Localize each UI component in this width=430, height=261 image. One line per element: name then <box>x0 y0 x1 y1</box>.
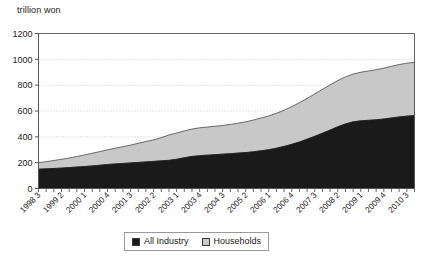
svg-text:1200: 1200 <box>12 29 32 39</box>
svg-text:1999 2: 1999 2 <box>41 190 65 214</box>
area-series-group <box>39 62 415 188</box>
svg-text:2000 4: 2000 4 <box>87 190 111 214</box>
x-axis-ticks: 1998 31999 22000 12000 42001 32002 22003… <box>18 189 414 215</box>
svg-text:2010 3: 2010 3 <box>387 190 411 214</box>
legend-item-households: Households <box>202 237 262 246</box>
svg-text:2008 2: 2008 2 <box>318 190 342 214</box>
svg-text:2000 1: 2000 1 <box>64 190 88 214</box>
svg-text:400: 400 <box>17 132 32 142</box>
svg-text:2007 3: 2007 3 <box>295 190 319 214</box>
svg-text:2001 3: 2001 3 <box>110 190 134 214</box>
svg-text:2004 3: 2004 3 <box>203 190 227 214</box>
svg-text:2003 4: 2003 4 <box>179 190 203 214</box>
svg-text:0: 0 <box>27 184 32 194</box>
legend-label-all-industry: All Industry <box>144 237 189 246</box>
legend-swatch-all-industry <box>132 238 140 246</box>
svg-text:800: 800 <box>17 80 32 90</box>
chart-container: trillion won 020040060080010001200 1998 … <box>0 0 430 261</box>
svg-text:2009 1: 2009 1 <box>341 190 365 214</box>
svg-text:2009 4: 2009 4 <box>364 190 388 214</box>
svg-text:2003 1: 2003 1 <box>156 190 180 214</box>
chart-legend: All Industry Households <box>124 232 269 251</box>
svg-text:2005 2: 2005 2 <box>226 190 250 214</box>
stacked-area-chart: 020040060080010001200 1998 31999 22000 1… <box>0 0 430 261</box>
legend-swatch-households <box>202 238 210 246</box>
svg-text:200: 200 <box>17 158 32 168</box>
svg-text:2006 1: 2006 1 <box>249 190 273 214</box>
svg-text:1000: 1000 <box>12 55 32 65</box>
legend-label-households: Households <box>214 237 262 246</box>
y-axis-ticks: 020040060080010001200 <box>12 29 38 194</box>
legend-item-all-industry: All Industry <box>132 237 189 246</box>
svg-text:1998 3: 1998 3 <box>18 190 42 214</box>
svg-text:600: 600 <box>17 106 32 116</box>
svg-text:2006 4: 2006 4 <box>272 190 296 214</box>
svg-text:2002 2: 2002 2 <box>133 190 157 214</box>
